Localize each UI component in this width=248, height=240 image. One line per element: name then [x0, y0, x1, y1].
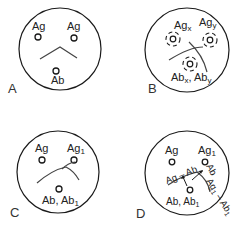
- diffusion-ring-ab: [183, 57, 197, 71]
- panel-label-c: C: [10, 205, 19, 220]
- diffusion-ring-ag-x: [166, 32, 180, 46]
- panel-label-a: A: [8, 81, 17, 96]
- label-ab-ab1: Ab, Ab1: [42, 194, 79, 208]
- precipitin-line-main: [37, 167, 79, 183]
- label-ab: Ab: [51, 74, 64, 86]
- panel-b: Agx Agy Abx, Aby B: [145, 8, 229, 96]
- well-ag: [169, 159, 175, 165]
- label-ag-1: Ag1: [198, 144, 216, 158]
- label-ab-xy: Abx, Aby: [171, 71, 211, 85]
- well-ag-y: [207, 37, 213, 43]
- well-ab: [56, 186, 62, 192]
- panel-label-b: B: [148, 81, 157, 96]
- well-ag-1: [202, 159, 208, 165]
- well-ag: [39, 157, 45, 163]
- label-ag-1: Ag1: [67, 142, 85, 156]
- well-ab: [187, 61, 193, 67]
- well-ag-left: [35, 34, 41, 40]
- label-ag-ab-complex: Ag – Ab: [164, 163, 199, 186]
- precipitin-line-y: [189, 42, 207, 72]
- label-ag-left: Ag: [32, 20, 45, 32]
- well-ag-x: [170, 36, 176, 42]
- panel-c: Ag Ag1 Ab, Ab1 C: [10, 131, 99, 220]
- label-ag-x: Agx: [174, 19, 191, 33]
- well-ag-right: [71, 35, 77, 41]
- diffusion-ring-ag-y: [203, 33, 217, 47]
- panel-label-d: D: [136, 206, 145, 221]
- label-ab-ab1: Ab, Ab1: [166, 196, 199, 208]
- precipitin-line: [40, 47, 77, 59]
- panel-d: Ag Ag1 Ab, Ab1 Ag – Ab Ab Ag1 – Ab1 D: [136, 131, 235, 221]
- panel-a: Ag Ag Ab A: [8, 8, 101, 96]
- label-ag-right: Ag: [67, 20, 80, 32]
- label-ag: Ag: [165, 144, 178, 156]
- immunodiffusion-figure: Ag Ag Ab A Agx Agy Abx, Aby B Ag Ag1 Ab,: [0, 0, 248, 240]
- label-ag1-ab1-complex: Ag1 – Ab1: [203, 176, 235, 217]
- well-ab: [187, 187, 193, 193]
- label-ag: Ag: [35, 142, 48, 154]
